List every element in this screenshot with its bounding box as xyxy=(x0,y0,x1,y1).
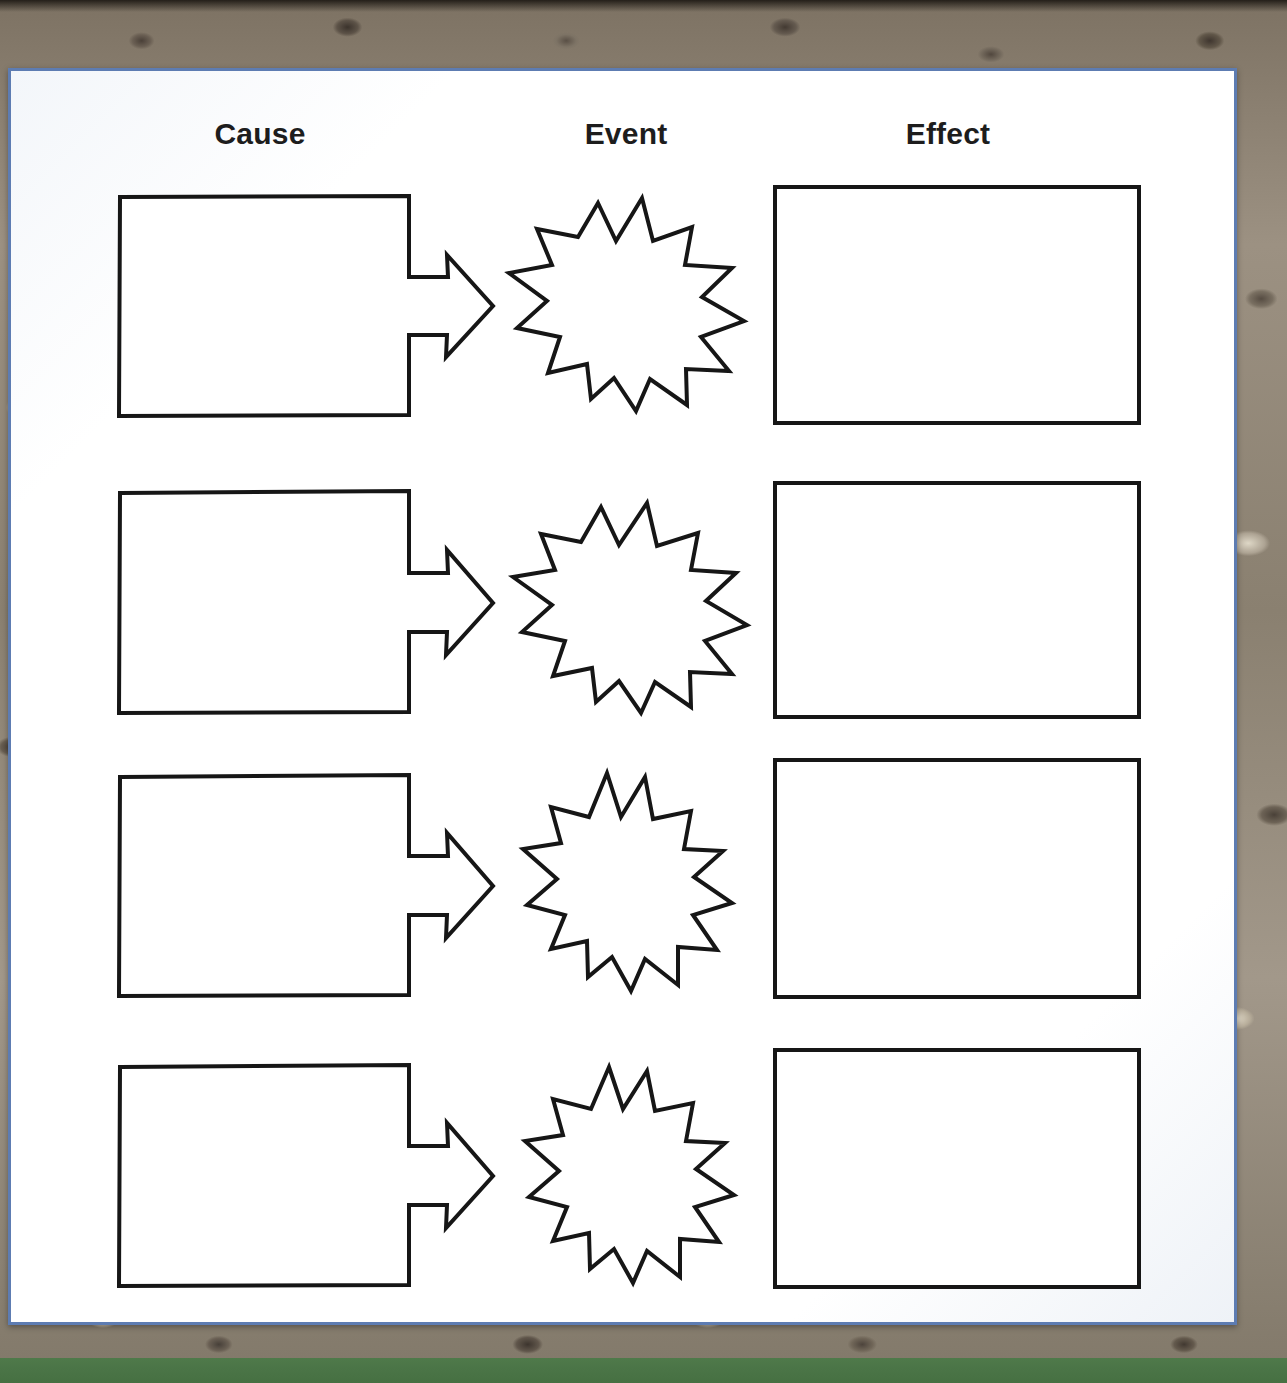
cause-box-with-arrow[interactable] xyxy=(103,1053,493,1303)
cause-box-with-arrow[interactable] xyxy=(103,189,493,439)
effect-box[interactable] xyxy=(759,763,1139,1013)
effect-box[interactable] xyxy=(759,189,1139,439)
event-starburst[interactable] xyxy=(495,763,763,1013)
event-cell[interactable] xyxy=(495,763,763,1013)
effect-cell[interactable] xyxy=(759,1053,1139,1303)
column-header-effect: Effect xyxy=(906,117,991,151)
cause-cell[interactable] xyxy=(103,189,493,439)
organizer-row xyxy=(11,1053,1234,1303)
top-shadow-overlay xyxy=(0,0,1287,12)
event-cell[interactable] xyxy=(495,483,763,733)
event-starburst[interactable] xyxy=(495,1053,763,1303)
cause-box-with-arrow[interactable] xyxy=(103,483,493,733)
cause-cell[interactable] xyxy=(103,483,493,733)
event-cell[interactable] xyxy=(495,1053,763,1303)
organizer-row xyxy=(11,189,1234,439)
effect-cell[interactable] xyxy=(759,189,1139,439)
event-cell[interactable] xyxy=(495,189,763,439)
organizer-row xyxy=(11,763,1234,1013)
effect-box[interactable] xyxy=(759,483,1139,733)
column-header-cause: Cause xyxy=(214,117,305,151)
effect-cell[interactable] xyxy=(759,483,1139,733)
worksheet-page: Cause Event Effect xyxy=(8,68,1237,1325)
column-header-event: Event xyxy=(585,117,668,151)
event-starburst[interactable] xyxy=(495,483,763,733)
cause-cell[interactable] xyxy=(103,763,493,1013)
effect-box[interactable] xyxy=(759,1053,1139,1303)
cause-box-with-arrow[interactable] xyxy=(103,763,493,1013)
effect-cell[interactable] xyxy=(759,763,1139,1013)
cause-cell[interactable] xyxy=(103,1053,493,1303)
grass-strip xyxy=(0,1358,1287,1383)
event-starburst[interactable] xyxy=(495,189,763,439)
organizer-row xyxy=(11,483,1234,733)
